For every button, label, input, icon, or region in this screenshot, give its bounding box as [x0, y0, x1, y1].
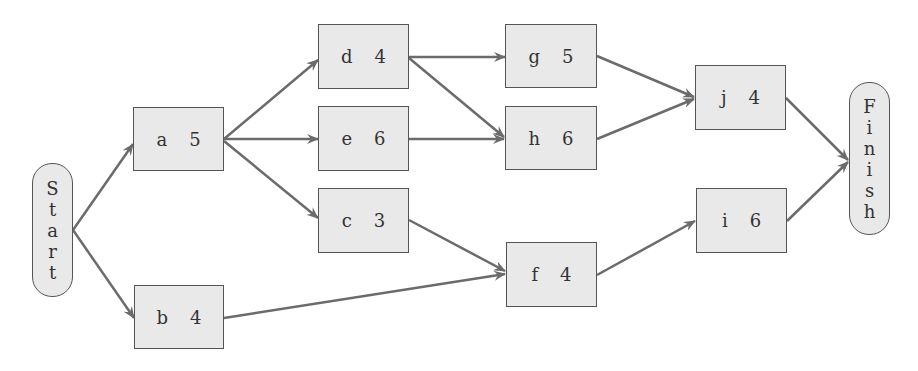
- activity-label: b: [157, 307, 169, 328]
- activity-node-c: c 3: [318, 188, 409, 253]
- start-letter: t: [49, 199, 56, 220]
- edge-c-f: [409, 220, 505, 271]
- start-letter: r: [48, 241, 57, 262]
- edge-start-a: [73, 144, 133, 230]
- edge-h-j: [597, 99, 694, 139]
- activity-label: c: [342, 210, 352, 231]
- activity-label: d: [341, 46, 353, 67]
- activity-duration: 6: [374, 128, 385, 149]
- edge-g-j: [597, 56, 694, 97]
- activity-node-j: j 4: [695, 65, 786, 130]
- activity-label: i: [722, 210, 728, 231]
- activity-node-b: b 4: [134, 285, 224, 349]
- activity-duration: 4: [375, 46, 386, 67]
- activity-duration: 6: [750, 210, 761, 231]
- activity-duration: 3: [374, 210, 385, 231]
- start-letter: t: [49, 262, 56, 283]
- activity-duration: 4: [560, 264, 571, 285]
- edge-f-i: [597, 221, 695, 275]
- activity-duration: 5: [562, 46, 573, 67]
- edge-a-c: [224, 141, 318, 218]
- activity-label: e: [341, 128, 352, 149]
- activity-label: h: [528, 128, 540, 149]
- activity-label: a: [156, 129, 167, 150]
- edge-d-h: [409, 58, 504, 137]
- finish-letter: n: [864, 138, 876, 159]
- activity-node-h: h 6: [505, 106, 597, 170]
- edge-a-d: [224, 60, 318, 139]
- activity-duration: 4: [749, 87, 760, 108]
- finish-node: F i n i s h: [849, 82, 890, 235]
- finish-letter: h: [864, 201, 876, 222]
- finish-letter: i: [867, 117, 873, 138]
- activity-node-g: g 5: [505, 24, 597, 88]
- finish-letter: F: [863, 96, 876, 117]
- activity-node-a: a 5: [133, 107, 224, 171]
- activity-node-i: i 6: [696, 188, 787, 253]
- start-letter: S: [46, 178, 58, 199]
- activity-label: f: [531, 264, 538, 285]
- start-node: S t a r t: [32, 163, 73, 297]
- activity-node-d: d 4: [318, 24, 409, 89]
- activity-duration: 5: [189, 129, 200, 150]
- activity-duration: 4: [190, 307, 201, 328]
- activity-network-diagram: S t a r t a 5 b 4 d 4 e 6 c 3 g 5 h 6 f …: [0, 0, 918, 371]
- edge-start-b: [73, 230, 134, 318]
- start-letter: a: [47, 220, 58, 241]
- activity-label: j: [721, 87, 727, 108]
- activity-node-e: e 6: [318, 106, 409, 171]
- edge-j-finish: [786, 98, 848, 160]
- finish-letter: s: [865, 180, 874, 201]
- finish-letter: i: [867, 159, 873, 180]
- edge-b-f: [224, 274, 505, 318]
- activity-duration: 6: [562, 128, 573, 149]
- activity-label: g: [529, 46, 541, 67]
- activity-node-f: f 4: [506, 242, 597, 307]
- edge-i-finish: [787, 162, 848, 221]
